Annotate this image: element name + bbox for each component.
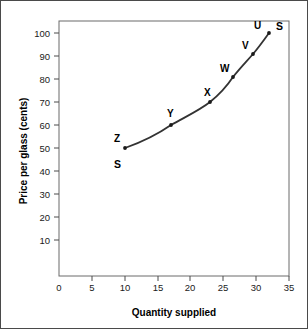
chart-canvas: 100 90 80 70 60 50 40 30 20 10 0 5 [1, 1, 308, 329]
data-point-v [251, 52, 255, 56]
x-tick-label-35: 35 [284, 282, 295, 293]
data-point-y [169, 123, 173, 127]
x-tick-label-15: 15 [153, 282, 164, 293]
point-label-y: Y [167, 108, 174, 119]
point-label-v: V [242, 40, 249, 51]
y-axis-title: Price per glass (cents) [18, 98, 29, 205]
supply-curve-figure: 100 90 80 70 60 50 40 30 20 10 0 5 [0, 0, 308, 329]
x-axis-ticks: 0 5 10 15 20 25 30 35 [56, 276, 294, 293]
y-tick-label-30: 30 [39, 189, 50, 200]
point-label-w: W [220, 63, 230, 74]
y-axis-ticks: 100 90 80 70 60 50 40 30 20 10 [34, 28, 59, 246]
x-tick-label-25: 25 [218, 282, 229, 293]
y-tick-label-40: 40 [39, 166, 50, 177]
y-tick-label-90: 90 [39, 51, 50, 62]
x-tick-label-5: 5 [89, 282, 94, 293]
x-tick-label-20: 20 [185, 282, 196, 293]
y-tick-label-100: 100 [34, 28, 50, 39]
data-point-x [208, 100, 212, 104]
y-tick-label-70: 70 [39, 97, 50, 108]
y-tick-label-80: 80 [39, 74, 50, 85]
data-point-u [267, 31, 271, 35]
plot-frame [59, 21, 289, 276]
y-tick-label-50: 50 [39, 143, 50, 154]
y-tick-label-10: 10 [39, 235, 50, 246]
curve-start-label-s: S [114, 158, 121, 170]
data-point-w [231, 75, 235, 79]
point-label-u: U [254, 20, 261, 31]
x-axis-title: Quantity supplied [132, 307, 216, 318]
point-label-x: X [204, 87, 211, 98]
data-point-z [123, 146, 127, 150]
x-tick-label-10: 10 [120, 282, 131, 293]
point-label-z: Z [114, 133, 120, 144]
y-tick-label-60: 60 [39, 120, 50, 131]
curve-end-label-s: S [276, 20, 283, 32]
x-tick-label-30: 30 [251, 282, 262, 293]
y-tick-label-20: 20 [39, 212, 50, 223]
x-tick-label-0: 0 [56, 282, 61, 293]
